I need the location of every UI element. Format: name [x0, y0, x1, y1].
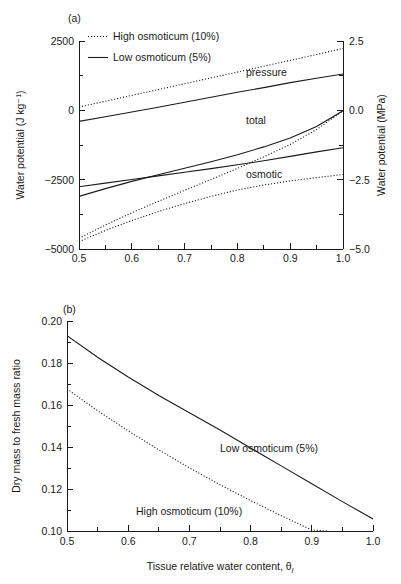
panel-b: (b): [10, 303, 380, 575]
panel-a-x-tick-2: 0.7: [177, 252, 192, 264]
panel-a-label: (a): [68, 12, 81, 24]
curve-b-low-osmoticum: [67, 336, 373, 519]
panel-a-right-tick-1: 0.0: [349, 104, 364, 116]
panel-a-right-tick-3: −5.0: [349, 243, 370, 255]
panel-a-x-tick-4: 0.9: [283, 252, 298, 264]
panel-a-left-axis-title: Water potential (J kg⁻¹): [14, 91, 26, 200]
panel-b-x-axis-title-subscript: l: [292, 566, 294, 575]
panel-a-left-tick-2: −2500: [45, 174, 75, 186]
panel-b-y-tick-1: 0.18: [42, 357, 63, 369]
panel-b-x-tick-4: 0.9: [304, 535, 319, 547]
panel-b-x-axis-title: Tissue relative water content, θl: [147, 560, 294, 575]
panel-b-label: (b): [63, 303, 76, 315]
panel-b-x-tick-2: 0.7: [182, 535, 197, 547]
panel-a-x-tick-0: 0.5: [72, 252, 87, 264]
curve-low-osmotic: [79, 148, 343, 187]
panel-a-right-tick-2: −2.5: [349, 174, 370, 186]
panel-a-left-tick-3: −5000: [45, 243, 75, 255]
figure-container: (a): [0, 0, 401, 584]
panel-b-x-tick-3: 0.8: [243, 535, 258, 547]
panel-a-curves: [79, 48, 343, 241]
panel-b-y-tick-4: 0.12: [42, 483, 63, 495]
panel-b-y-tick-0: 0.20: [42, 315, 63, 327]
panel-a-right-tick-0: 2.5: [349, 35, 364, 47]
panel-a: (a): [14, 12, 387, 264]
panel-a-left-tick-0: 2500: [51, 35, 75, 47]
panel-a-label-total: total: [246, 114, 266, 126]
figure-svg: (a): [0, 0, 401, 584]
panel-a-label-pressure: pressure: [246, 66, 287, 78]
panel-b-x-tick-1: 0.6: [121, 535, 136, 547]
panel-b-curves: [67, 336, 373, 531]
panel-a-x-tick-5: 1.0: [336, 252, 351, 264]
panel-b-y-tick-3: 0.14: [42, 441, 63, 453]
curve-high-total: [79, 111, 343, 238]
panel-a-right-minor-ticks: [339, 76, 343, 215]
panel-a-x-tick-1: 0.6: [124, 252, 139, 264]
panel-a-left-tick-1: 0: [68, 104, 74, 116]
panel-a-x-tick-3: 0.8: [230, 252, 245, 264]
panel-a-bottom-minor-ticks: [105, 245, 316, 249]
legend-label-low-osmoticum: Low osmoticum (5%): [113, 51, 211, 63]
panel-a-left-minor-ticks: [79, 76, 83, 215]
panel-b-y-tick-2: 0.16: [42, 399, 63, 411]
panel-b-x-tick-0: 0.5: [60, 535, 75, 547]
legend-label-high-osmoticum: High osmoticum (10%): [113, 30, 219, 42]
panel-b-label-high-osmoticum: High osmoticum (10%): [136, 505, 242, 517]
panel-a-right-axis-title: Water potential (MPa): [375, 94, 387, 196]
curve-low-pressure: [79, 74, 343, 121]
panel-b-label-low-osmoticum: Low osmoticum (5%): [220, 442, 318, 454]
panel-b-x-axis-title-main: Tissue relative water content,: [147, 560, 286, 572]
panel-b-left-minor-ticks: [67, 342, 71, 510]
panel-a-legend: High osmoticum (10%) Low osmoticum (5%): [88, 30, 219, 63]
panel-b-x-tick-5: 1.0: [366, 535, 381, 547]
panel-b-y-axis-title: Dry mass to fresh mass ratio: [10, 359, 22, 493]
panel-a-label-osmotic: osmotic: [246, 168, 282, 180]
